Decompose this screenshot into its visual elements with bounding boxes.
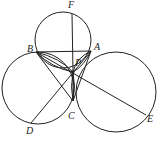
label-C: C bbox=[68, 111, 75, 121]
geometry-diagram bbox=[0, 0, 163, 142]
right-circle bbox=[76, 52, 156, 132]
label-E: E bbox=[147, 114, 153, 124]
label-P: P bbox=[75, 58, 81, 68]
segment-BC bbox=[36, 52, 73, 101]
top-circle bbox=[35, 12, 91, 68]
point-P bbox=[72, 71, 75, 74]
label-F: F bbox=[68, 0, 74, 10]
segment-BE bbox=[36, 52, 146, 115]
label-A: A bbox=[94, 42, 100, 52]
segment-FP bbox=[72, 14, 73, 72]
segment-BA bbox=[36, 51, 91, 52]
label-D: D bbox=[26, 126, 33, 136]
label-B: B bbox=[27, 44, 33, 54]
